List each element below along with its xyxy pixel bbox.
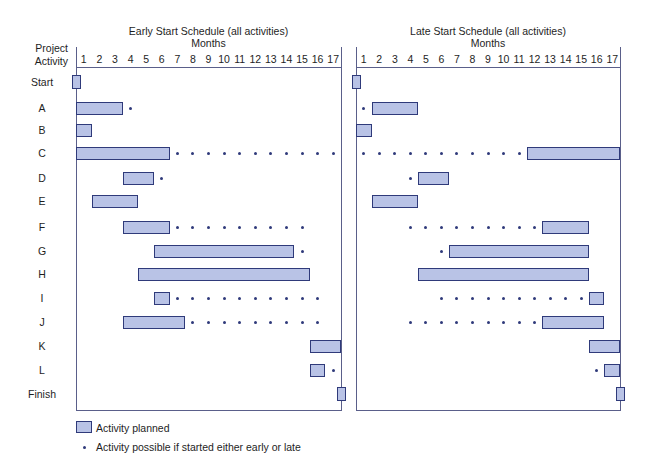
early-slack-dot — [238, 152, 241, 155]
early-bottom-axis — [76, 410, 342, 411]
early-slack-dot — [191, 152, 194, 155]
late-month-tick: 14 — [558, 53, 574, 65]
activity-label-a: A — [12, 102, 72, 114]
late-slack-dot — [533, 297, 536, 300]
early-slack-dot — [316, 297, 319, 300]
late-slack-dot — [502, 297, 505, 300]
early-slack-dot — [207, 226, 210, 229]
late-month-tick: 4 — [402, 53, 418, 65]
late-slack-dot — [378, 152, 381, 155]
early-month-tick: 4 — [123, 53, 139, 65]
early-slack-dot — [285, 226, 288, 229]
late-month-tick: 1 — [356, 53, 372, 65]
late-bar-c — [527, 147, 620, 160]
late-slack-dot — [502, 152, 505, 155]
early-month-tick: 10 — [216, 53, 232, 65]
late-milestone-finish — [616, 387, 625, 401]
late-bar-f — [542, 221, 589, 234]
late-slack-dot — [440, 226, 443, 229]
early-month-tick: 8 — [185, 53, 201, 65]
early-slack-dot — [207, 152, 210, 155]
late-bar-l — [604, 364, 620, 377]
late-slack-dot — [595, 369, 598, 372]
late-slack-dot — [518, 321, 521, 324]
late-month-tick: 13 — [542, 53, 558, 65]
early-slack-dot — [191, 226, 194, 229]
late-slack-dot — [424, 226, 427, 229]
late-slack-dot — [440, 321, 443, 324]
late-slack-dot — [502, 321, 505, 324]
early-slack-dot — [316, 321, 319, 324]
early-bar-f — [123, 221, 170, 234]
late-milestone-start — [352, 75, 361, 89]
late-bar-b — [356, 124, 372, 137]
late-slack-dot — [518, 297, 521, 300]
legend-bar-swatch — [76, 421, 92, 433]
late-month-tick: 12 — [527, 53, 543, 65]
early-slack-dot — [191, 297, 194, 300]
late-slack-dot — [533, 226, 536, 229]
early-slack-dot — [285, 152, 288, 155]
early-bar-k — [310, 340, 341, 353]
early-slack-dot — [191, 321, 194, 324]
early-slack-dot — [254, 152, 257, 155]
late-slack-dot — [455, 226, 458, 229]
early-slack-dot — [223, 297, 226, 300]
early-month-tick: 9 — [201, 53, 217, 65]
early-month-tick: 2 — [91, 53, 107, 65]
activity-label-d: D — [12, 172, 72, 184]
late-slack-dot — [424, 152, 427, 155]
late-slack-dot — [518, 226, 521, 229]
early-month-tick: 15 — [294, 53, 310, 65]
early-month-tick: 14 — [278, 53, 294, 65]
late-slack-dot — [409, 177, 412, 180]
late-month-tick: 7 — [449, 53, 465, 65]
late-slack-dot — [533, 321, 536, 324]
late-month-tick: 10 — [496, 53, 512, 65]
late-slack-dot — [487, 226, 490, 229]
late-bar-j — [542, 316, 604, 329]
legend-dot-icon — [83, 446, 86, 449]
late-month-tick: 5 — [418, 53, 434, 65]
late-month-tick: 8 — [464, 53, 480, 65]
early-slack-dot — [301, 226, 304, 229]
late-month-tick: 11 — [511, 53, 527, 65]
early-slack-dot — [223, 321, 226, 324]
early-slack-dot — [269, 226, 272, 229]
late-month-tick: 9 — [480, 53, 496, 65]
late-slack-dot — [440, 297, 443, 300]
early-slack-dot — [301, 297, 304, 300]
activity-label-h: H — [12, 268, 72, 280]
late-slack-dot — [549, 297, 552, 300]
late-month-tick: 3 — [387, 53, 403, 65]
early-slack-dot — [269, 297, 272, 300]
early-slack-dot — [129, 107, 132, 110]
early-slack-dot — [160, 177, 163, 180]
early-slack-dot — [269, 321, 272, 324]
activity-label-k: K — [12, 340, 72, 352]
early-bar-i — [154, 292, 170, 305]
early-bar-a — [76, 102, 123, 115]
late-slack-dot — [564, 297, 567, 300]
late-slack-dot — [440, 152, 443, 155]
late-month-tick: 15 — [573, 53, 589, 65]
activity-label-g: G — [12, 245, 72, 257]
early-slack-dot — [269, 152, 272, 155]
early-bar-l — [310, 364, 326, 377]
late-bar-i — [589, 292, 605, 305]
early-bar-e — [92, 195, 139, 208]
late-slack-dot — [580, 297, 583, 300]
activity-label-finish: Finish — [12, 388, 72, 400]
late-top-axis — [356, 67, 620, 68]
late-bar-d — [418, 172, 449, 185]
late-bar-a — [372, 102, 419, 115]
early-slack-dot — [176, 226, 179, 229]
early-slack-dot — [238, 297, 241, 300]
early-top-axis — [76, 67, 341, 68]
late-months-label: Months — [356, 37, 620, 49]
late-slack-dot — [455, 152, 458, 155]
late-bar-k — [589, 340, 620, 353]
early-month-tick: 3 — [107, 53, 123, 65]
early-month-tick: 1 — [76, 53, 92, 65]
early-slack-dot — [285, 297, 288, 300]
